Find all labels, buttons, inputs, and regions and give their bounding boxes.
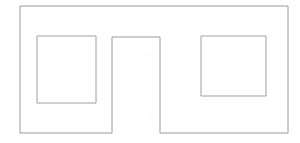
inner-square-left — [37, 36, 96, 103]
drawing-canvas — [0, 0, 300, 143]
scan-speck — [146, 53, 147, 54]
line-drawing-figure — [0, 0, 300, 143]
scan-speck — [150, 117, 151, 118]
inner-square-right — [201, 36, 266, 96]
